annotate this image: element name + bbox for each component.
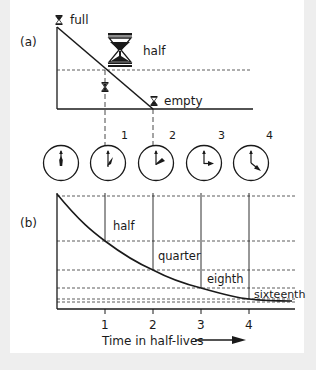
clock-label-4: 4 xyxy=(266,129,273,142)
hourglass-empty-icon xyxy=(151,96,158,106)
x-tick-4: 4 xyxy=(245,318,253,332)
label-half-b: half xyxy=(113,219,136,233)
label-full: full xyxy=(70,13,89,27)
clock-label-1: 1 xyxy=(121,129,128,142)
clock-label-3: 3 xyxy=(218,129,225,142)
label-half: half xyxy=(143,44,166,58)
label-quarter: quarter xyxy=(158,249,201,263)
hourglass-full-icon xyxy=(56,15,63,25)
clock-icon-3 xyxy=(187,146,222,181)
panel-a-label: (a) xyxy=(20,35,37,49)
clock-icon-0 xyxy=(44,146,79,181)
x-axis-title: Time in half-lives xyxy=(101,334,204,348)
clock-icon-2 xyxy=(139,146,174,181)
clock-icon-4 xyxy=(234,146,269,181)
label-eighth: eighth xyxy=(207,272,244,286)
half-life-diagram: (a) full half xyxy=(0,0,316,370)
hourglass-small-icon xyxy=(102,82,109,92)
label-sixteenth: sixteenth xyxy=(254,288,305,301)
hourglass-half-icon xyxy=(108,33,132,67)
x-tick-1: 1 xyxy=(101,318,109,332)
panel-a: (a) full half xyxy=(20,13,273,146)
label-empty: empty xyxy=(164,94,203,108)
clock-row xyxy=(44,146,269,181)
clock-icon-1 xyxy=(91,146,126,181)
x-tick-2: 2 xyxy=(149,318,157,332)
x-tick-3: 3 xyxy=(197,318,205,332)
panel-b: (b) half quar xyxy=(20,193,305,348)
panel-b-label: (b) xyxy=(20,216,37,230)
clock-label-2: 2 xyxy=(169,129,176,142)
decay-curve xyxy=(57,194,292,301)
